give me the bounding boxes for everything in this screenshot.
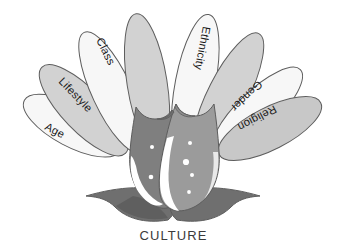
bud-right-dot: [190, 173, 194, 177]
bud-right-dot: [183, 159, 189, 165]
bud-right-dot: [187, 190, 191, 194]
bud-left-dot: [150, 145, 154, 149]
caption-culture: CULTURE: [139, 228, 207, 243]
figure-canvas: Age Lifestyle Class Ethnicity: [0, 0, 347, 251]
culture-flower-diagram: Age Lifestyle Class Ethnicity: [0, 0, 347, 251]
bud-left-dot: [149, 175, 154, 180]
bud-right-dot: [188, 141, 192, 145]
